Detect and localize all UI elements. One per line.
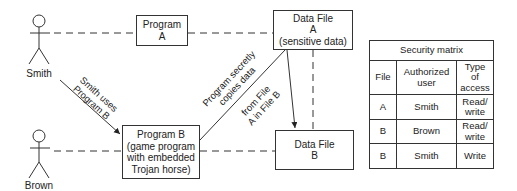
matrix-row: A Smith Read/write [370,95,494,120]
brown-figure-icon [29,130,50,178]
program-b-line: with embedded [127,152,195,164]
matrix-row: B Brown Read/write [370,120,494,144]
matrix-cell-user: Brown [397,120,457,144]
data-file-b-line: Data File [294,139,334,151]
program-b-box: Program B(game programwith embeddedTroja… [122,125,200,179]
matrix-title: Security matrix [370,41,494,61]
program-a-line: A [143,31,181,43]
matrix-row: B Smith Write [370,144,494,169]
actor-smith-label: Smith [18,68,60,79]
data-file-a-line: (sensitive data) [279,36,347,48]
program-b-line: Trojan horse) [127,164,195,176]
matrix-cell-file: A [370,95,397,120]
matrix-cell-user: Smith [397,144,457,169]
data-file-b-line: B [294,150,334,162]
matrix-cell-access: Read/write [457,95,494,120]
matrix-header-access: Typeofaccess [457,61,494,95]
actor-brown-label: Brown [18,180,60,191]
program-a-line: Program [143,19,181,31]
smith-figure-icon [29,15,50,64]
matrix-header-file: File [370,61,397,95]
program-a-box: ProgramA [136,15,188,46]
data-file-b-box: Data FileB [275,130,354,170]
matrix-cell-access: Write [457,144,494,169]
program-b-line: Program B [127,129,195,141]
matrix-cell-file: B [370,144,397,169]
security-matrix-table: Security matrix File Authorizeduser Type… [369,40,494,169]
data-file-a-line: A [279,24,347,36]
matrix-cell-user: Smith [397,95,457,120]
matrix-header-user: Authorizeduser [397,61,457,95]
data-file-a-box: Data FileA(sensitive data) [273,10,353,50]
program-b-line: (game program [127,141,195,153]
matrix-cell-access: Read/write [457,120,494,144]
data-file-a-line: Data File [279,13,347,25]
matrix-cell-file: B [370,120,397,144]
